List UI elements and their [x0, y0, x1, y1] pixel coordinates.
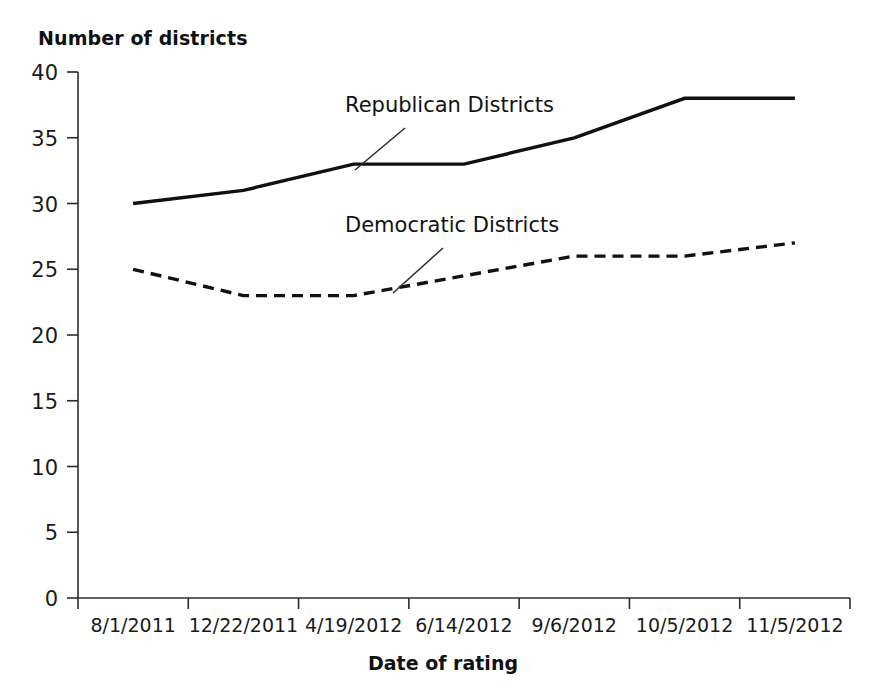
x-tick-label: 12/22/2011 — [189, 614, 299, 636]
y-tick-label: 20 — [31, 324, 58, 348]
y-tick-label: 10 — [31, 456, 58, 480]
y-tick-label: 15 — [31, 390, 58, 414]
x-axis-title: Date of rating — [0, 652, 886, 674]
x-tick-labels: 8/1/201112/22/20114/19/20126/14/20129/6/… — [90, 614, 843, 636]
x-tick-label: 10/5/2012 — [636, 614, 733, 636]
series-label-democratic: Democratic Districts — [345, 213, 559, 237]
x-tick-label: 11/5/2012 — [746, 614, 843, 636]
y-tick-labels: 0510152025303540 — [31, 61, 58, 611]
data-series-layer — [133, 98, 795, 295]
y-tick-label: 40 — [31, 61, 58, 85]
x-tick-label: 9/6/2012 — [532, 614, 617, 636]
y-tick-label: 25 — [31, 258, 58, 282]
series-line-dashed — [133, 243, 795, 296]
series-label-republican: Republican Districts — [345, 93, 554, 117]
y-tick-label: 35 — [31, 127, 58, 151]
line-chart-plot: 0510152025303540 8/1/201112/22/20114/19/… — [0, 0, 886, 695]
x-tick-label: 8/1/2011 — [90, 614, 175, 636]
y-tick-label: 5 — [45, 521, 58, 545]
annotation-leader-line — [393, 248, 443, 293]
y-tick-label: 30 — [31, 193, 58, 217]
chart-figure: Number of districts 0510152025303540 8/1… — [0, 0, 886, 695]
y-tick-label: 0 — [45, 587, 58, 611]
x-tick-label: 6/14/2012 — [415, 614, 512, 636]
y-tick-marks — [67, 72, 78, 598]
x-tick-label: 4/19/2012 — [305, 614, 402, 636]
x-tick-marks — [78, 598, 850, 609]
